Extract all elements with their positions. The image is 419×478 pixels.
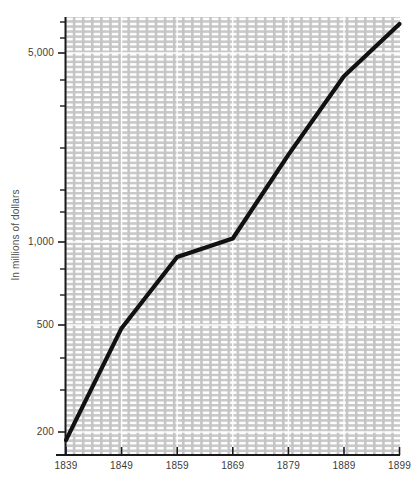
x-tick-label-1849: 1849 (98, 460, 146, 471)
x-tick-label-1889: 1889 (320, 460, 368, 471)
x-tick-label-1879: 1879 (264, 460, 312, 471)
y-axis-title: In millions of dollars (6, 150, 24, 320)
x-tick-label-1899: 1899 (376, 460, 419, 471)
x-axis-tick-labels: 1839 1849 1859 1869 1879 1889 1899 (0, 0, 419, 478)
x-tick-label-1859: 1859 (153, 460, 201, 471)
chart-container: 5,000 1,000 500 200 1839 1849 1859 1869 … (0, 0, 419, 478)
y-axis-title-text: In millions of dollars (10, 189, 21, 280)
x-tick-label-1839: 1839 (42, 460, 90, 471)
x-tick-label-1869: 1869 (209, 460, 257, 471)
